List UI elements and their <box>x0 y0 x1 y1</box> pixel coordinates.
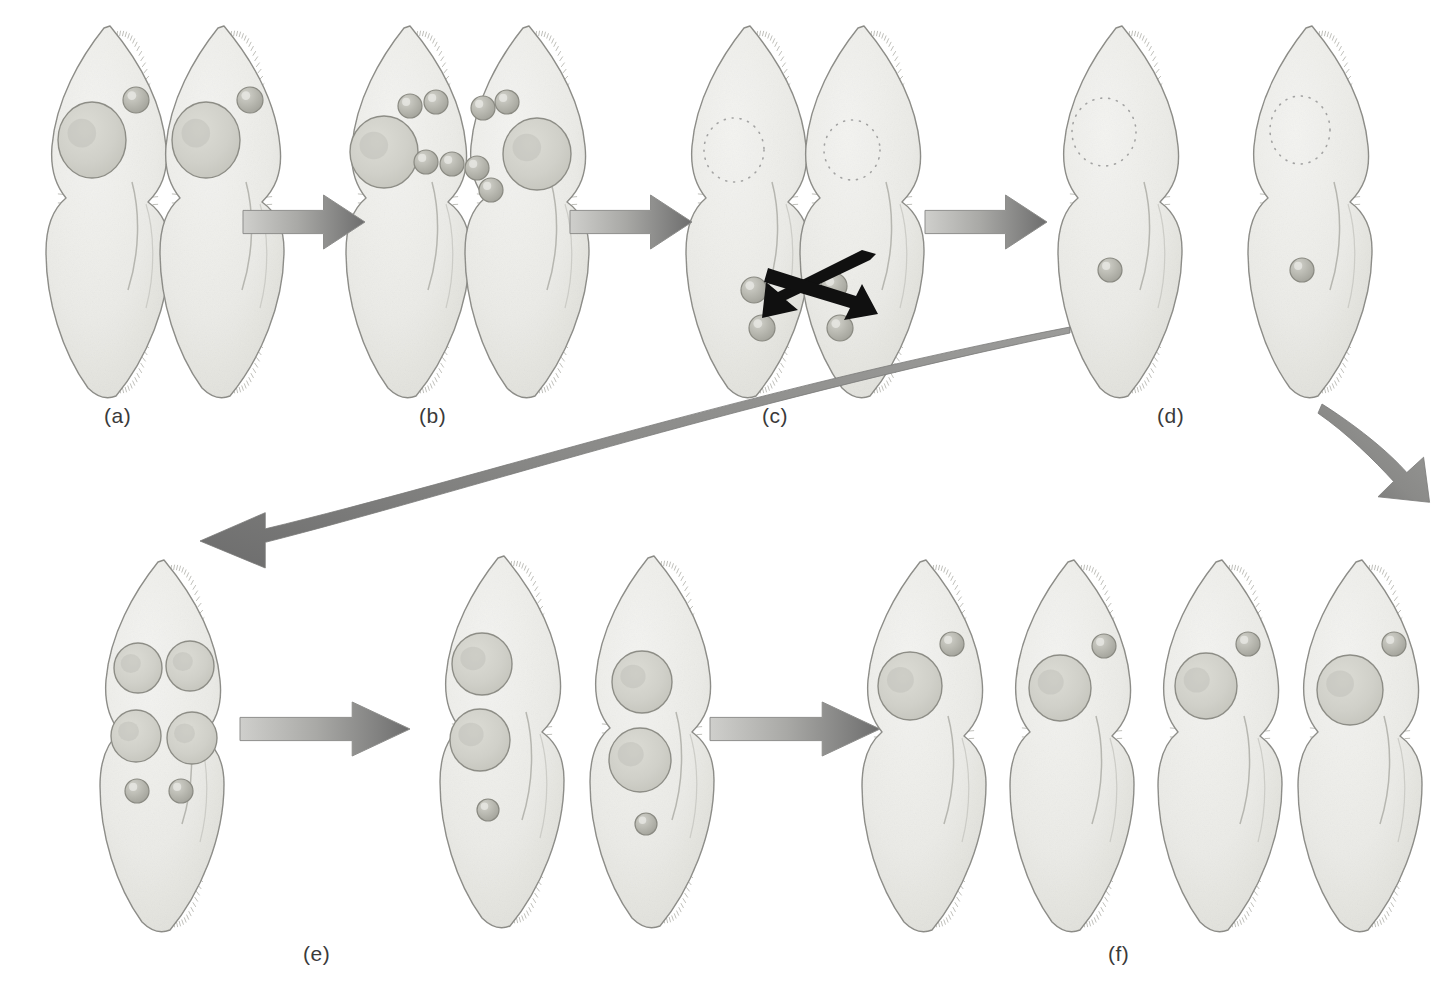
micronucleus-1 <box>1382 632 1406 656</box>
micronucleus-3 <box>414 150 438 174</box>
micronucleus-3 <box>465 156 489 180</box>
stage-label-f: (f) <box>1108 942 1129 966</box>
paramecium-cell-f-3 <box>1148 556 1298 936</box>
micronucleus-1 <box>123 87 149 113</box>
stage-label-c: (c) <box>762 404 788 428</box>
cell-body <box>1248 26 1372 398</box>
paramecium-cell-d-2 <box>1238 22 1388 402</box>
micronucleus-1 <box>940 632 964 656</box>
process-arrow-b-to-c <box>570 193 692 251</box>
process-arrow-d-down-right <box>1318 400 1438 510</box>
cell-body <box>1058 26 1182 398</box>
micronucleus-4 <box>479 178 503 202</box>
micronucleus-1 <box>1092 634 1116 658</box>
micronucleus-1 <box>237 87 263 113</box>
paramecium-cell-f-4 <box>1288 556 1438 936</box>
stage-label-e: (e) <box>303 942 330 966</box>
micronucleus-1 <box>471 96 495 120</box>
micronucleus-1 <box>477 799 499 821</box>
paramecium-cell-d-1 <box>1048 22 1198 402</box>
process-arrow-a-to-b <box>243 193 365 251</box>
micronucleus-2 <box>495 90 519 114</box>
paramecium-cell-e2-1 <box>430 552 580 932</box>
micronuclei-exchange-arrows <box>758 248 882 328</box>
micronucleus-1 <box>1098 258 1122 282</box>
stage-label-b: (b) <box>419 404 446 428</box>
stage-label-a: (a) <box>104 404 131 428</box>
micronucleus-2 <box>169 779 193 803</box>
paramecium-conjugation-figure: (a)(b)(c)(d)(e)(f) <box>0 0 1444 994</box>
paramecium-cell-e-1 <box>90 556 240 936</box>
micronucleus-1 <box>125 779 149 803</box>
cell-body <box>1010 560 1134 932</box>
micronucleus-1 <box>635 813 657 835</box>
stage-label-d: (d) <box>1157 404 1184 428</box>
micronucleus-1 <box>1236 632 1260 656</box>
paramecium-cell-f-2 <box>1000 556 1150 936</box>
process-arrow-d-to-e-sweep <box>200 325 1070 595</box>
paramecium-cell-e2-2 <box>580 552 730 932</box>
process-arrow-c-to-d <box>925 193 1047 251</box>
micronucleus-1 <box>398 94 422 118</box>
cell-body <box>1158 560 1282 932</box>
process-arrow-e-to-e2 <box>240 700 410 758</box>
cell-body <box>862 560 986 932</box>
micronucleus-2 <box>424 90 448 114</box>
process-arrow-e2-to-f <box>710 700 880 758</box>
micronucleus-1 <box>1290 258 1314 282</box>
cell-body <box>1298 560 1422 932</box>
